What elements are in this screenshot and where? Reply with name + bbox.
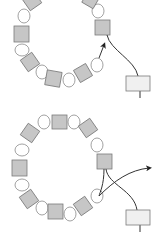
stopper-bead <box>126 210 150 225</box>
step-2-diagram <box>12 115 150 232</box>
stopper-bead <box>126 76 150 91</box>
beading-diagram <box>0 0 165 232</box>
step-1-diagram <box>14 0 150 98</box>
